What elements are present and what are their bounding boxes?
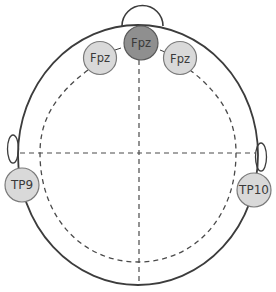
electrode-fpz-right[interactable]: Fpz [164, 42, 197, 75]
electrode-label: Fpz [131, 36, 151, 50]
fpz-left-connector [115, 48, 121, 50]
nose-outline [122, 5, 163, 26]
electrode-fpz-left[interactable]: Fpz [84, 42, 117, 75]
left-ear-outline [8, 135, 19, 163]
electrode-label: Fpz [170, 52, 190, 66]
electrode-label: TP9 [10, 178, 33, 192]
inner-circumference-dashed [40, 70, 236, 262]
electrode-tp9[interactable]: TP9 [5, 168, 39, 202]
eeg-head-diagram: Fpz Fpz Fpz TP9 TP10 [0, 0, 276, 292]
electrode-label: Fpz [90, 51, 110, 65]
electrode-tp10[interactable]: TP10 [237, 173, 271, 207]
electrode-label: TP10 [238, 183, 269, 197]
head-outline [18, 25, 258, 285]
electrode-fpz-center[interactable]: Fpz [124, 26, 158, 60]
